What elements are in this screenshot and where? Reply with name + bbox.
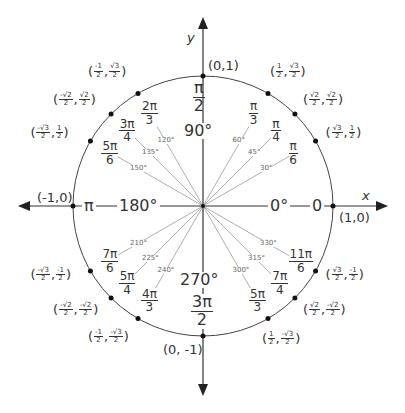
x-axis-right-arrow-icon: [376, 201, 388, 211]
radian-label-240: 4π3: [141, 288, 158, 314]
degree-label-135: 135°: [142, 149, 159, 156]
radian-label-30: π6: [289, 140, 298, 166]
circle-point-300: [266, 316, 271, 321]
coord-label-60: (12,√32): [270, 63, 306, 79]
coord-label-30: (√32,12): [326, 125, 362, 141]
circle-point-120: [136, 91, 141, 96]
coord-label-240: (-12,-√32): [88, 329, 129, 345]
radian-label-60: π3: [249, 100, 258, 126]
degree-label-240: 240°: [158, 267, 175, 274]
coord-label-135: (-√22,√22): [53, 92, 96, 108]
degree-label-315: 315°: [248, 255, 265, 262]
circle-point-45: [292, 112, 297, 117]
degree-label-150: 150°: [130, 165, 147, 172]
cardinal-point: [201, 334, 206, 339]
degree-label-45: 45°: [248, 149, 260, 156]
circle-point-330: [313, 269, 318, 274]
radian-label-210: 7π6: [101, 248, 118, 274]
degree-label-60: 60°: [233, 137, 245, 144]
circle-point-240: [136, 316, 141, 321]
y-axis-up-arrow-icon: [198, 17, 208, 29]
degree-label-30: 30°: [260, 165, 272, 172]
coord-label-west: (-1,0): [37, 191, 73, 204]
degree-label-210: 210°: [130, 240, 147, 247]
cardinal-point: [331, 204, 336, 209]
x-axis-left-arrow-icon: [18, 201, 30, 211]
coord-label-east: (1,0): [339, 211, 370, 224]
unit-circle-diagram: y x (0,1) (-1,0) (1,0) (0, -1) π 2 90° π…: [0, 0, 405, 413]
coord-label-300: (12,-√32): [262, 331, 300, 347]
radian-label-south: 3π 2: [191, 294, 213, 329]
degree-label-330: 330°: [260, 240, 277, 247]
origin-point: [201, 204, 205, 208]
radian-label-330: 11π6: [289, 248, 314, 274]
coord-label-330: (√32,-12): [326, 267, 364, 283]
degree-label-225: 225°: [142, 255, 159, 262]
x-axis-label: x: [362, 188, 370, 203]
radian-label-west: π: [82, 198, 96, 214]
radian-label-300: 5π3: [249, 288, 266, 314]
circle-point-315: [292, 295, 297, 300]
coord-label-north: (0,1): [208, 59, 239, 72]
degree-label-120: 120°: [158, 137, 175, 144]
radian-label-225: 5π4: [119, 270, 136, 296]
radian-label-135: 3π4: [119, 118, 136, 144]
degree-label-west: 180°: [117, 198, 160, 214]
coord-label-225: (-√22,-√22): [53, 302, 98, 318]
coord-label-150: (-√32,12): [30, 125, 68, 141]
coord-label-120: (-12,√32): [88, 63, 126, 79]
circle-point-150: [88, 139, 93, 144]
y-axis-label: y: [187, 30, 195, 45]
circle-point-135: [109, 112, 114, 117]
degree-label-300: 300°: [233, 267, 250, 274]
degree-label-east: 0°: [268, 198, 290, 214]
radian-label-315: 7π4: [271, 270, 288, 296]
circle-point-225: [109, 295, 114, 300]
radian-label-north: π 2: [193, 80, 205, 115]
degree-label-north: 90°: [184, 123, 212, 139]
radian-label-45: π4: [271, 118, 280, 144]
coord-label-315: (√22,-√22): [303, 302, 346, 318]
radian-label-120: 2π3: [141, 100, 158, 126]
y-axis-down-arrow-icon: [198, 384, 208, 396]
circle-point-30: [313, 139, 318, 144]
coord-label-south: (0, -1): [163, 343, 203, 356]
coord-label-210: (-√32,-12): [30, 267, 71, 283]
degree-label-south: 270°: [180, 272, 219, 288]
circle-point-210: [88, 269, 93, 274]
coord-label-45: (√22,√22): [303, 92, 343, 108]
radian-label-east: 0: [310, 198, 324, 214]
radian-label-150: 5π6: [101, 140, 118, 166]
circle-point-60: [266, 91, 271, 96]
